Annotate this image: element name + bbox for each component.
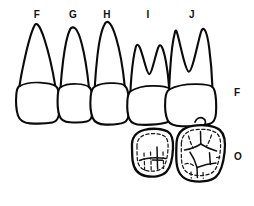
view-label-occlusal: O [234,152,248,162]
tooth-g-facial [58,27,93,122]
tooth-f-facial [16,24,59,124]
tooth-j-occlusal [176,125,225,181]
tooth-label-j: J [185,10,199,20]
figure-canvas: F G H I J F O [0,0,254,206]
tooth-h-facial [90,22,129,125]
tooth-i-occlusal [132,129,173,177]
tooth-label-f: F [30,10,44,20]
tooth-j-facial [165,29,216,126]
view-label-facial: F [234,88,248,98]
tooth-label-g: G [66,10,80,20]
tooth-label-h: H [100,10,114,20]
dental-anatomy-illustration [0,0,254,206]
tooth-label-i: I [141,10,155,20]
